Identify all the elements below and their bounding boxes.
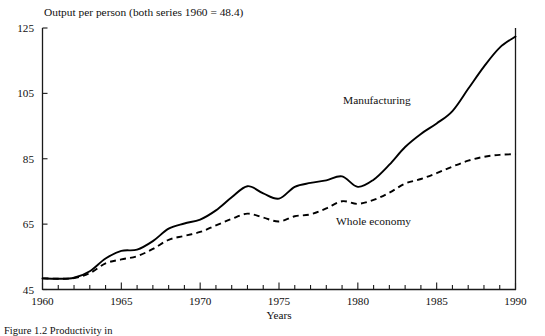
x-tick-label: 1975 <box>268 295 291 307</box>
y-axis-tick-marks <box>43 28 48 290</box>
y-tick-label: 85 <box>23 153 35 165</box>
x-tick-label: 1985 <box>425 295 448 307</box>
x-tick-label: 1965 <box>110 295 133 307</box>
series-label-manufacturing: Manufacturing <box>343 94 411 106</box>
y-axis-tick-labels: 456585105125 <box>17 22 34 296</box>
x-tick-label: 1980 <box>347 295 370 307</box>
figure-caption: Figure 1.2 Productivity in <box>4 325 113 336</box>
series-label-whole-economy: Whole economy <box>336 215 411 227</box>
series-line-manufacturing <box>43 36 516 278</box>
figure-container: Output per person (both series 1960 = 48… <box>0 0 545 336</box>
y-tick-label: 125 <box>17 22 34 34</box>
y-tick-label: 65 <box>23 218 35 230</box>
x-axis-title: Years <box>267 309 292 321</box>
x-tick-label: 1960 <box>31 295 54 307</box>
chart-title: Output per person (both series 1960 = 48… <box>44 6 244 19</box>
y-tick-label: 105 <box>17 87 34 99</box>
x-tick-label: 1990 <box>504 295 527 307</box>
x-axis-tick-labels: 1960196519701975198019851990 <box>31 295 527 307</box>
x-tick-label: 1970 <box>189 295 212 307</box>
series-line-whole-economy <box>43 154 516 279</box>
x-axis-major-ticks <box>43 283 516 290</box>
line-chart: Output per person (both series 1960 = 48… <box>0 0 545 336</box>
